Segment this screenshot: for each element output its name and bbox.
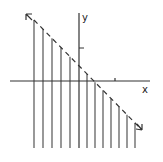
shaded-region-hatching bbox=[34, 20, 135, 148]
inequality-graph: y x bbox=[0, 0, 163, 162]
x-axis-label: x bbox=[142, 84, 148, 95]
arrow-upper-left-icon bbox=[26, 14, 32, 20]
y-axis-label: y bbox=[82, 12, 88, 23]
